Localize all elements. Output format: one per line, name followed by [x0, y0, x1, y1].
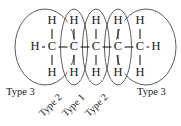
atom-upper-h-4: H — [113, 13, 122, 27]
atom-upper-h-5: H — [135, 13, 144, 27]
atom-terminal-h-left: H — [30, 39, 39, 53]
label-type-3-left: Type 3 — [6, 86, 35, 97]
atom-lower-h-2: H — [69, 65, 78, 79]
atom-lower-h-3: H — [91, 65, 100, 79]
label-type-2-left: Type 2 — [37, 91, 64, 118]
label-type-1-center: Type 1 — [60, 91, 87, 118]
atom-upper-h-2: H — [69, 13, 78, 27]
chemical-structure-figure: H H C C C C C H H H H H H H H H H Type 3… — [0, 0, 181, 126]
atom-upper-h-3: H — [91, 13, 100, 27]
label-type-3-right: Type 3 — [137, 86, 166, 97]
label-type-2-right: Type 2 — [83, 91, 110, 118]
atom-carbon-2: C — [70, 39, 78, 53]
atom-terminal-h-right: H — [151, 39, 160, 53]
atom-lower-h-5: H — [135, 65, 144, 79]
atom-carbon-1: C — [48, 39, 56, 53]
atom-carbon-4: C — [114, 39, 122, 53]
atom-lower-h-1: H — [47, 65, 56, 79]
atom-carbon-5: C — [136, 39, 144, 53]
atom-lower-h-4: H — [113, 65, 122, 79]
structure-canvas: H H C C C C C H H H H H H H H H H Type 3… — [0, 0, 181, 126]
atom-upper-h-1: H — [47, 13, 56, 27]
atom-carbon-3: C — [92, 39, 100, 53]
